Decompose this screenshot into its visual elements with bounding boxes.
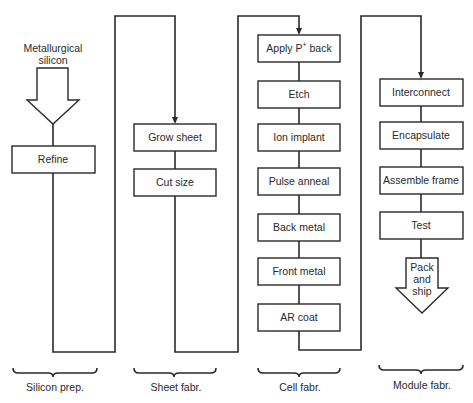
step-label: Ion implant xyxy=(273,131,324,143)
brace-silicon-prep xyxy=(13,368,97,377)
step-label: Interconnect xyxy=(392,86,450,98)
step-label: Cut size xyxy=(156,176,194,188)
step-label: Etch xyxy=(288,88,309,100)
connector-lines xyxy=(53,16,424,352)
stage-braces: Silicon prep. Sheet fabr. Cell fabr. Mod… xyxy=(13,365,463,393)
brace-sheet-fabr xyxy=(134,368,216,377)
stage-silicon-prep: Refine xyxy=(12,146,95,173)
step-label: Pulse anneal xyxy=(269,175,330,187)
stage-label-silicon-prep: Silicon prep. xyxy=(26,381,84,393)
output-label-line2: and xyxy=(413,273,431,285)
brace-module-fabr xyxy=(379,365,463,374)
step-label: Refine xyxy=(38,153,69,165)
step-label: AR coat xyxy=(280,311,317,323)
step-label: Back metal xyxy=(273,221,325,233)
brace-cell-fabr xyxy=(258,368,340,377)
step-label: Apply P+ back xyxy=(266,41,332,54)
output-label-line3: ship xyxy=(412,285,431,297)
step-label: Grow sheet xyxy=(148,131,202,143)
stage-label-module-fabr: Module fabr. xyxy=(393,379,451,391)
input-label-line1: Metallurgical xyxy=(24,42,83,54)
arrowhead-icon xyxy=(296,28,302,35)
arrowhead-icon xyxy=(172,117,178,124)
output-label-line1: Pack xyxy=(410,261,434,273)
step-label: Encapsulate xyxy=(392,129,450,141)
step-label: Test xyxy=(411,219,430,231)
input-label-line2: silicon xyxy=(38,54,67,66)
step-label: Front metal xyxy=(272,265,325,277)
stage-label-sheet-fabr: Sheet fabr. xyxy=(151,381,202,393)
step-label: Assemble frame xyxy=(383,174,459,186)
input-block-arrow: Metallurgical silicon xyxy=(24,42,83,124)
arrowhead-icon xyxy=(418,72,424,79)
process-flow-diagram: Metallurgical silicon Refine Grow sheet … xyxy=(0,0,473,403)
stage-label-cell-fabr: Cell fabr. xyxy=(279,381,320,393)
